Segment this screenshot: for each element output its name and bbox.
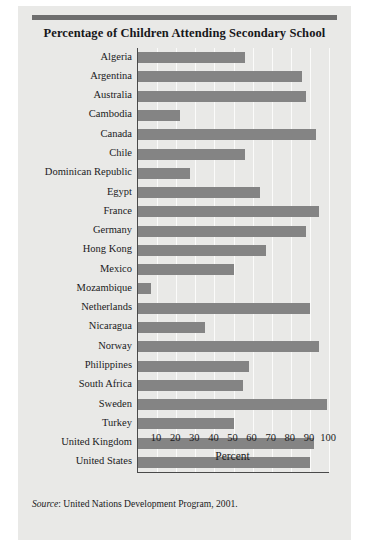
bar [138, 129, 316, 140]
y-axis-label: Mexico [16, 264, 132, 275]
y-axis-label: Argentina [16, 71, 132, 82]
bar [138, 418, 234, 429]
source-keyword: Source [32, 498, 58, 509]
x-axis-tick-label: 20 [170, 432, 181, 443]
y-axis-label: Norway [16, 341, 132, 352]
y-axis-label: Nicaragua [16, 321, 132, 332]
x-axis-tick-label: 30 [189, 432, 200, 443]
x-axis-tick-label: 40 [208, 432, 219, 443]
bar [138, 361, 249, 372]
y-axis-label: Canada [16, 129, 132, 140]
bar [138, 206, 319, 217]
y-axis-label: Germany [16, 225, 132, 236]
y-axis-label: United States [16, 456, 132, 467]
bar [138, 168, 190, 179]
y-axis-label: Dominican Republic [16, 167, 132, 178]
bar [138, 52, 245, 63]
bar [138, 91, 306, 102]
x-axis-tick-label: 90 [304, 432, 315, 443]
source-text: : United Nations Development Program, 20… [58, 498, 237, 509]
source-note: Source: United Nations Development Progr… [32, 498, 238, 509]
y-axis-label: South Africa [16, 379, 132, 390]
x-axis-title: Percent [137, 450, 328, 462]
bar [138, 187, 260, 198]
y-axis-label: Australia [16, 90, 132, 101]
gridline [329, 48, 330, 472]
y-axis-label: France [16, 206, 132, 217]
bar [138, 226, 306, 237]
y-axis-label: Netherlands [16, 302, 132, 313]
bar [138, 399, 327, 410]
bar [138, 71, 302, 82]
y-axis-label: Egypt [16, 187, 132, 198]
bar [138, 283, 151, 294]
y-axis-label: Hong Kong [16, 244, 132, 255]
y-axis-labels: AlgeriaArgentinaAustraliaCambodiaCanadaC… [18, 48, 136, 472]
bar [138, 110, 180, 121]
bar [138, 322, 205, 333]
x-axis-tick-label: 60 [246, 432, 257, 443]
y-axis-label: Chile [16, 148, 132, 159]
bar [138, 149, 245, 160]
x-axis-tick-label: 10 [151, 432, 162, 443]
figure-panel: Percentage of Children Attending Seconda… [18, 6, 351, 540]
y-axis-label: Algeria [16, 52, 132, 63]
bar [138, 380, 243, 391]
y-axis-label: Sweden [16, 399, 132, 410]
bar [138, 341, 319, 352]
y-axis-label: United Kingdom [16, 437, 132, 448]
x-axis-tick-label: 100 [320, 432, 336, 443]
bar [138, 245, 266, 256]
plot-area [137, 48, 329, 473]
x-axis-tick-label: 80 [285, 432, 296, 443]
y-axis-label: Philippines [16, 360, 132, 371]
chart-title: Percentage of Children Attending Seconda… [18, 26, 351, 41]
bar [138, 303, 310, 314]
x-axis-ticks: 102030405060708090100 [137, 432, 328, 448]
plot-wrapper: AlgeriaArgentinaAustraliaCambodiaCanadaC… [18, 48, 351, 480]
y-axis-label: Cambodia [16, 109, 132, 120]
bar [138, 264, 234, 275]
title-rule [32, 15, 337, 20]
x-axis-tick-label: 50 [227, 432, 238, 443]
y-axis-label: Mozambique [16, 283, 132, 294]
y-axis-label: Turkey [16, 418, 132, 429]
x-axis-tick-label: 70 [265, 432, 276, 443]
